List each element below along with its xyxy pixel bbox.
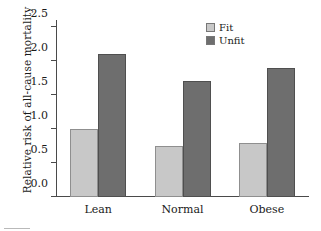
y-axis-tick-mark [51,26,56,27]
bar-lean-fit [70,129,98,197]
y-axis-tick-label: 1.5 [31,75,49,88]
bar-lean-unfit [98,54,126,197]
y-axis-tick-mark [51,128,56,129]
plot-area: 0.00.51.01.52.02.5 LeanNormalObese [56,20,309,197]
y-axis-tick-label: 0.0 [31,177,49,190]
x-axis-label-obese: Obese [249,203,284,216]
legend-item-fit: Fit [206,22,245,33]
legend-swatch-fit-icon [206,23,215,32]
bar-normal-unfit [183,81,211,197]
x-axis-label-lean: Lean [84,203,111,216]
y-axis-tick-label: 0.5 [31,143,49,156]
legend-label-unfit: Unfit [219,35,245,46]
bar-obese-unfit [267,68,295,197]
legend-swatch-unfit-icon [206,36,215,45]
y-axis-tick-label: 1.0 [31,109,49,122]
legend-label-fit: Fit [219,22,233,33]
y-axis-line [56,20,57,197]
bar-obese-fit [239,143,267,197]
y-axis-tick-label: 2.5 [31,7,49,20]
x-axis-label-normal: Normal [161,203,203,216]
chart-legend: FitUnfit [206,22,245,46]
y-axis-tick-mark [51,196,56,197]
caption-rule [4,228,30,229]
bar-normal-fit [155,146,183,197]
y-axis-tick-mark [51,94,56,95]
y-axis-tick-mark [51,60,56,61]
legend-item-unfit: Unfit [206,35,245,46]
y-axis-title: Relative risk of all-cause mortality [21,5,33,195]
bar-chart-figure: Relative risk of all-cause mortality 0.0… [0,0,321,231]
y-axis-tick-mark [51,162,56,163]
y-axis-tick-label: 2.0 [31,41,49,54]
